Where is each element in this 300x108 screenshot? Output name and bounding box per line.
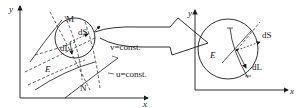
right-dS-label: dS <box>262 30 272 40</box>
left-x-label: x <box>142 99 147 108</box>
solid-curve-3 <box>65 58 118 98</box>
center-point <box>236 49 238 51</box>
left-dL-label: dL <box>60 43 70 53</box>
left-E-label: E <box>44 64 51 74</box>
v-pointer <box>112 56 118 58</box>
u-const-label: u=const. <box>116 69 147 79</box>
right-x-label: x <box>289 86 294 96</box>
left-panel: y x M N E dS dL v=const. u=const. <box>8 4 148 108</box>
right-y-label: y <box>187 8 192 18</box>
dashed-curve-2 <box>28 60 85 85</box>
right-E-label: E <box>209 50 216 60</box>
left-y-label: y <box>8 4 13 14</box>
right-panel: y x E dS dL <box>187 8 294 96</box>
diagram-canvas: y x M N E dS dL v=const. u=const. y x E … <box>0 0 300 108</box>
left-dS-label: dS <box>78 27 88 37</box>
u-pointer <box>108 73 114 74</box>
right-curve <box>230 28 248 78</box>
point-M-label: M <box>66 14 74 24</box>
point-N-label: N <box>80 83 87 93</box>
right-dL-label: dL <box>252 62 262 72</box>
